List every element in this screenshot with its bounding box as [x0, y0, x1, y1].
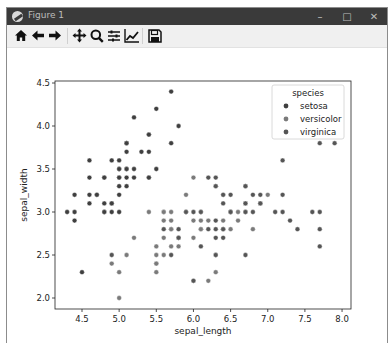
data-point: [72, 192, 77, 197]
arrow-right-icon: [48, 29, 62, 42]
data-point: [191, 235, 196, 240]
data-point: [154, 261, 159, 266]
data-point: [243, 201, 248, 206]
forward-button[interactable]: [46, 27, 63, 44]
maximize-button[interactable]: □: [334, 8, 360, 25]
zoom-button[interactable]: [88, 27, 105, 44]
data-point: [146, 132, 151, 137]
data-point: [228, 192, 233, 197]
minimize-button[interactable]: –: [307, 8, 333, 25]
data-point: [191, 278, 196, 283]
data-point: [198, 218, 203, 223]
navigation-toolbar: [7, 25, 387, 48]
data-point: [169, 89, 174, 94]
data-point: [176, 244, 181, 249]
x-axis: 4.55.05.56.06.57.07.58.0: [75, 309, 349, 324]
home-button[interactable]: [12, 27, 29, 44]
legend-entry-setosa: setosa: [300, 101, 328, 111]
data-point: [221, 227, 226, 232]
data-point: [132, 115, 137, 120]
data-point: [236, 218, 241, 223]
data-point: [198, 210, 203, 215]
data-point: [109, 210, 114, 215]
data-point: [139, 149, 144, 154]
data-point: [258, 192, 263, 197]
toolbar-separator: [142, 28, 143, 44]
data-point: [117, 175, 122, 180]
home-icon: [14, 29, 28, 42]
y-tick-label: 4.5: [36, 78, 50, 88]
data-point: [228, 210, 233, 215]
data-point: [191, 175, 196, 180]
close-button[interactable]: ✕: [361, 8, 387, 25]
x-tick-label: 5.5: [150, 314, 164, 324]
data-point: [154, 244, 159, 249]
data-point: [124, 141, 129, 146]
save-button[interactable]: [146, 27, 163, 44]
data-point: [198, 244, 203, 249]
arrow-left-icon: [31, 29, 45, 42]
data-point: [243, 253, 248, 258]
data-point: [109, 201, 114, 206]
data-point: [87, 192, 92, 197]
data-point: [117, 192, 122, 197]
y-tick-label: 2.5: [36, 250, 50, 260]
data-point: [124, 149, 129, 154]
data-point: [221, 201, 226, 206]
data-point: [154, 270, 159, 275]
data-point: [265, 192, 270, 197]
data-point: [87, 201, 92, 206]
matplotlib-app-icon: [12, 11, 23, 22]
data-point: [102, 210, 107, 215]
data-point: [280, 210, 285, 215]
data-point: [102, 175, 107, 180]
data-point: [117, 210, 122, 215]
data-point: [243, 210, 248, 215]
data-point: [206, 218, 211, 223]
toolbar-separator: [67, 28, 68, 44]
data-point: [146, 149, 151, 154]
data-point: [250, 210, 255, 215]
data-point: [169, 244, 174, 249]
figure-canvas[interactable]: 4.55.05.56.06.57.07.58.0sepal_length2.02…: [7, 48, 387, 343]
data-point: [169, 253, 174, 258]
data-point: [117, 184, 122, 189]
title-bar[interactable]: Figure 1 – □ ✕: [7, 8, 387, 25]
data-point: [176, 227, 181, 232]
data-point: [169, 141, 174, 146]
data-point: [109, 253, 114, 258]
data-point: [72, 218, 77, 223]
data-point: [154, 106, 159, 111]
data-point: [258, 201, 263, 206]
data-point: [184, 192, 189, 197]
data-point: [221, 235, 226, 240]
scatter-plot[interactable]: 4.55.05.56.06.57.07.58.0sepal_length2.02…: [7, 48, 387, 343]
legend-entry-virginica: virginica: [300, 127, 336, 137]
data-point: [221, 192, 226, 197]
data-point: [161, 210, 166, 215]
data-point: [176, 235, 181, 240]
data-point: [102, 201, 107, 206]
data-point: [213, 227, 218, 232]
edit-axes-button[interactable]: [123, 27, 140, 44]
data-point: [288, 218, 293, 223]
y-tick-label: 2.0: [36, 293, 50, 303]
y-tick-label: 3.0: [36, 207, 50, 217]
data-point: [161, 227, 166, 232]
x-tick-label: 5.0: [112, 314, 126, 324]
pan-button[interactable]: [71, 27, 88, 44]
data-point: [124, 184, 129, 189]
data-point: [161, 218, 166, 223]
x-tick-label: 8.0: [335, 314, 349, 324]
sliders-icon: [107, 29, 121, 43]
data-point: [221, 218, 226, 223]
data-point: [236, 210, 241, 215]
data-point: [332, 141, 337, 146]
data-point: [87, 158, 92, 163]
data-point: [213, 270, 218, 275]
data-point: [169, 227, 174, 232]
subplots-button[interactable]: [105, 27, 122, 44]
data-point: [243, 184, 248, 189]
data-point: [94, 192, 99, 197]
back-button[interactable]: [29, 27, 46, 44]
